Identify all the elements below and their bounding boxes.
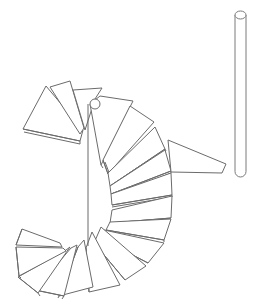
column-top-hole (90, 99, 100, 109)
stair-step-edge (101, 165, 103, 168)
pole-body (235, 15, 246, 177)
landing-platform (168, 140, 226, 173)
staircase-drawing (0, 0, 263, 307)
vertical-pole (235, 11, 246, 177)
stair-step (16, 229, 62, 247)
stair-steps (16, 81, 172, 299)
pole-top-cap (235, 11, 246, 19)
